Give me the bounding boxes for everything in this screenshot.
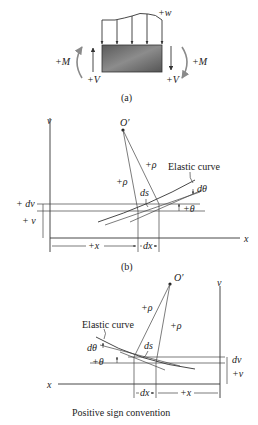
dx-dim-label: dx [143,240,153,251]
moment-left-arrow [77,47,82,78]
rho-left-label: +ρ [116,176,128,187]
x-dim-label: +x [88,240,100,251]
center-label: O′ [120,117,130,128]
distributed-load-arrows [102,14,162,44]
shear-left-label: +V [87,74,102,85]
x-axis-label: x [243,233,249,244]
v-axis-label: v [47,115,52,126]
dv-label-c: dv [232,354,242,365]
rho-left-label-c: +ρ [141,302,153,313]
figure-b-elastic-curve: v x O′ +ρ +ρ Elastic curve dθ +θ ds + dv… [16,115,249,273]
rho-right-label-c: +ρ [170,320,182,331]
dtheta-label: dθ [197,183,207,194]
center-label-c: O′ [174,272,184,283]
curve-label-c: Elastic curve [82,319,134,330]
moment-left-label: +M [55,56,71,67]
beam-deflection-diagram: +w +M +V +V +M (a) v x O′ +ρ +ρ [0,0,258,425]
caption-b: (b) [121,261,133,273]
shear-right-label: +V [166,74,181,85]
theta-label: +θ [183,203,195,214]
load-label: +w [158,7,172,18]
v-axis-label-c: v [217,277,222,288]
ds-label-c: ds [144,340,153,351]
x-axis-label-c: x [46,379,52,390]
dx-dim-label-c: dx [140,387,150,398]
dv-label: + dv [16,198,35,209]
rho-right-label: +ρ [145,159,157,170]
ds-label: ds [140,187,149,198]
figure-c-sign-convention: v x O′ +ρ +ρ Elastic curve dθ +θ ds dv +… [46,272,244,418]
x-dim-label-c: +x [180,387,192,398]
v-label-c: +v [232,368,244,379]
dtheta-label-c: dθ [87,342,97,353]
theta-label-c: +θ [92,356,104,367]
moment-right-label: +M [192,56,208,67]
beam-segment [102,45,162,72]
curve-label: Elastic curve [168,161,220,172]
caption-a: (a) [121,92,132,104]
v-label: + v [22,215,36,226]
caption-c: Positive sign convention [72,407,170,418]
figure-a-free-body: +w +M +V +V +M (a) [55,7,208,104]
moment-right-arrow [182,47,187,78]
